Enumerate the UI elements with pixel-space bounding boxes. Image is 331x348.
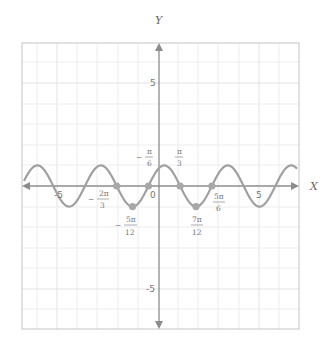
marked-point [113, 182, 120, 189]
svg-text:6: 6 [216, 204, 221, 213]
svg-text:π: π [147, 147, 152, 156]
label-7pi-12: 7π 12 [191, 215, 203, 237]
svg-text:3: 3 [177, 159, 182, 168]
x-tick-neg5: -5 [54, 190, 63, 200]
svg-text:7π: 7π [192, 215, 202, 224]
svg-text:−: − [115, 221, 121, 230]
x-axis-title: X [309, 180, 319, 193]
svg-text:π: π [177, 147, 182, 156]
y-axis-title: Y [155, 14, 164, 27]
svg-text:12: 12 [192, 228, 202, 237]
svg-text:6: 6 [147, 159, 152, 168]
axes [22, 43, 299, 329]
chart-canvas: Y X 5 -5 -5 5 0 − 2π 3 − 5π 12 − π 6 π 3… [0, 0, 331, 348]
y-tick-neg5: -5 [146, 284, 155, 294]
svg-text:5π: 5π [126, 215, 136, 224]
svg-text:3: 3 [100, 201, 105, 210]
marked-point [208, 182, 215, 189]
y-axis-arrow-down-icon [155, 321, 163, 329]
label-5pi-6: 5π 6 [213, 192, 225, 213]
marked-point [145, 182, 152, 189]
x-tick-5: 5 [256, 190, 262, 200]
svg-text:−: − [88, 195, 94, 204]
svg-text:12: 12 [125, 228, 135, 237]
svg-text:2π: 2π [99, 189, 109, 198]
marked-point [192, 203, 199, 210]
marked-point [177, 182, 184, 189]
x-axis-arrow-left-icon [22, 182, 30, 190]
y-axis-arrow-up-icon [155, 43, 163, 51]
y-tick-5: 5 [150, 78, 156, 88]
x-axis-arrow-right-icon [291, 182, 299, 190]
origin-label: 0 [150, 190, 156, 200]
svg-text:5π: 5π [214, 192, 224, 201]
svg-text:−: − [136, 153, 142, 162]
marked-point [129, 203, 136, 210]
